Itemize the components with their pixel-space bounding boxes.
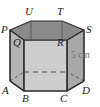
vertex-label-A: A bbox=[2, 85, 9, 96]
vertex-label-Q: Q bbox=[13, 37, 21, 48]
vertex-label-S: S bbox=[86, 24, 92, 35]
vertex-label-B: B bbox=[22, 93, 29, 104]
dimension-label-height: 5 cm bbox=[71, 50, 90, 60]
vertex-label-T: T bbox=[57, 6, 63, 17]
face-top-hexagon bbox=[10, 21, 84, 40]
hexagonal-prism-figure: P U T S R Q A B C D 5 cm bbox=[0, 0, 100, 107]
vertex-label-C: C bbox=[60, 93, 67, 104]
vertex-label-P: P bbox=[1, 24, 8, 35]
vertex-label-U: U bbox=[25, 6, 33, 17]
vertex-label-R: R bbox=[57, 37, 64, 48]
vertex-label-D: D bbox=[82, 85, 90, 96]
